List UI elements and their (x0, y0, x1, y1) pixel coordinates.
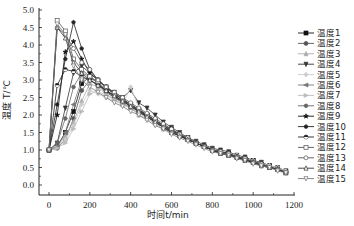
y-tick-label: 0.0 (23, 180, 35, 190)
legend-label: 温度6 (317, 80, 340, 90)
legend-label: 温度15 (317, 174, 346, 184)
x-tick-label: 600 (165, 200, 179, 210)
y-tick-label: 1.0 (23, 145, 35, 155)
legend-item: 温度10 (298, 122, 346, 132)
legend-item: 温度3 (298, 49, 340, 59)
legend-item: 温度2 (298, 38, 340, 48)
x-tick-label: 800 (206, 200, 220, 210)
y-tick-label: 4.5 (23, 23, 35, 33)
y-tick-label: 1.5 (23, 128, 35, 138)
series-12 (47, 19, 288, 175)
legend-item: 温度11 (298, 132, 346, 142)
legend-label: 温度8 (317, 101, 340, 111)
legend-item: 温度12 (298, 142, 346, 152)
y-tick-label: 5.0 (23, 5, 35, 15)
legend-label: 温度14 (317, 163, 346, 173)
x-axis-title: 时间t/min (147, 209, 189, 220)
legend-label: 温度12 (317, 142, 346, 152)
y-tick-label: 3.0 (23, 75, 35, 85)
legend-label: 温度7 (317, 90, 340, 100)
legend-label: 温度4 (317, 59, 340, 69)
y-axis-title: 温度 T/℃ (1, 80, 12, 120)
x-tick-label: 200 (83, 200, 97, 210)
y-tick-label: 2.5 (23, 93, 35, 103)
series-9 (47, 39, 289, 175)
y-tick-label: 0.5 (23, 163, 35, 173)
legend-label: 温度11 (317, 132, 346, 142)
legend-item: 温度5 (298, 70, 340, 80)
legend-item: 温度9 (298, 111, 340, 121)
legend-item: 温度14 (298, 163, 346, 173)
x-tick-label: 0 (47, 200, 52, 210)
legend: 温度1温度2温度3温度4温度5温度6温度7温度8温度9温度10温度11温度12温… (298, 28, 346, 184)
legend-label: 温度10 (317, 122, 346, 132)
legend-item: 温度15 (298, 174, 346, 184)
legend-item: 温度7 (298, 90, 340, 100)
x-tick-label: 400 (124, 200, 138, 210)
temperature-chart: 0.00.51.01.52.02.53.03.54.04.55.00200400… (0, 0, 354, 226)
y-tick-label: 3.5 (23, 58, 35, 68)
plot-area (47, 19, 289, 176)
legend-label: 温度9 (317, 111, 340, 121)
legend-label: 温度2 (317, 38, 340, 48)
x-tick-label: 1200 (285, 200, 304, 210)
legend-label: 温度3 (317, 49, 340, 59)
y-tick-label: 2.0 (23, 110, 35, 120)
legend-label: 温度5 (317, 70, 340, 80)
legend-item: 温度4 (298, 59, 340, 69)
y-tick-label: 4.0 (23, 40, 35, 50)
legend-item: 温度1 (298, 28, 340, 38)
legend-item: 温度13 (298, 153, 346, 163)
legend-item: 温度8 (298, 101, 340, 111)
legend-label: 温度1 (317, 28, 340, 38)
legend-item: 温度6 (298, 80, 340, 90)
x-tick-label: 1000 (244, 200, 263, 210)
legend-label: 温度13 (317, 153, 346, 163)
